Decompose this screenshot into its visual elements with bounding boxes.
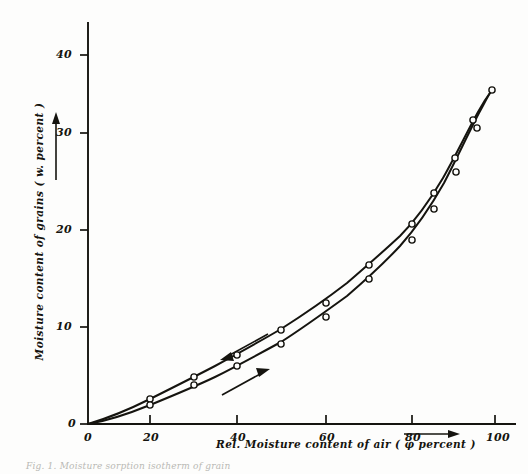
y-axis-direction-arrow xyxy=(52,112,60,180)
curve-adsorption xyxy=(88,90,492,424)
adsorption-flow-arrow xyxy=(222,368,270,395)
curve-desorption xyxy=(88,90,492,424)
figure-caption: Fig. 1. Moisture sorption isotherm of gr… xyxy=(26,461,230,471)
x-tick-label-100: 100 xyxy=(486,431,510,444)
x-tick-marks xyxy=(150,415,495,424)
y-tick-label-20: 20 xyxy=(56,223,72,236)
y-tick-label-0: 0 xyxy=(68,417,76,430)
x-tick-label-0: 0 xyxy=(84,431,92,444)
plot-canvas xyxy=(0,0,528,474)
y-tick-label-30: 30 xyxy=(56,126,72,139)
x-tick-label-20: 20 xyxy=(143,431,159,444)
desorption-flow-arrow xyxy=(220,334,268,361)
y-axis-title-text: Moisture content of grains ( w. percent … xyxy=(33,103,45,361)
figure-container: 40 30 20 10 0 0 20 40 60 80 100 Moisture… xyxy=(0,0,528,474)
data-markers-desorption xyxy=(147,87,495,402)
data-markers-adsorption xyxy=(147,125,480,408)
y-tick-marks xyxy=(80,55,88,424)
y-tick-label-40: 40 xyxy=(56,48,72,61)
x-axis-title: Rel. Moisture content of air ( φ percent… xyxy=(216,438,476,450)
y-axis-title: Moisture content of grains ( w. percent … xyxy=(28,102,47,362)
y-tick-label-10: 10 xyxy=(56,320,72,333)
